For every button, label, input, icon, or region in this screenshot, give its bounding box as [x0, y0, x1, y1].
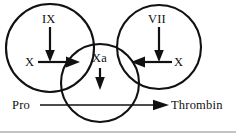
label-factor-vii: VII	[148, 13, 166, 26]
x-to-xa-arrow	[38, 57, 80, 68]
label-factor-x-left: X	[25, 56, 34, 69]
label-factor-x-right: X	[174, 56, 183, 69]
pro-to-thrombin-arrow	[40, 100, 169, 110]
vii-to-x-arrow	[154, 27, 164, 62]
label-factor-ix: IX	[42, 13, 56, 26]
xa-down-arrow	[95, 68, 105, 90]
cascade-diagram	[0, 0, 236, 138]
x-to-xa-arrow-right	[131, 57, 172, 68]
label-factor-xa: Xa	[92, 52, 107, 65]
label-pro: Pro	[12, 99, 30, 112]
figure-canvas: IX VII X X Xa Pro Thrombin	[0, 0, 236, 138]
ix-to-x-arrow	[45, 27, 55, 62]
label-thrombin: Thrombin	[171, 99, 223, 112]
